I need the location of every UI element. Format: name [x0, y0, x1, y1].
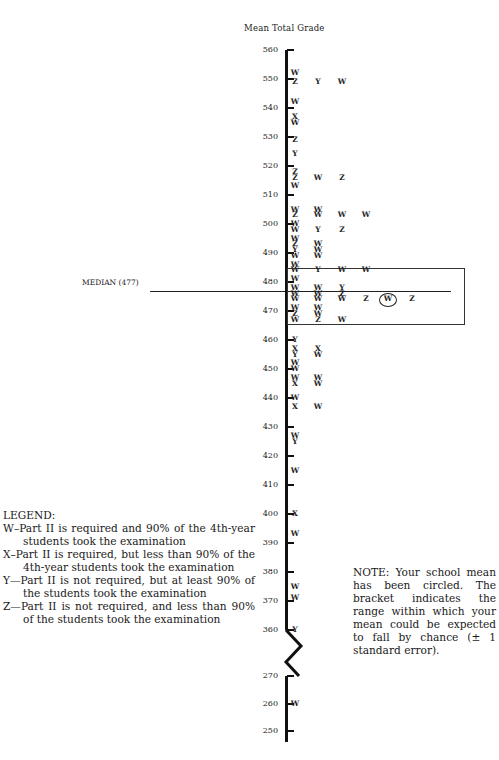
y-tick — [287, 107, 294, 109]
y-tick — [287, 730, 294, 732]
y-tick-label: 550 — [248, 74, 278, 83]
note: NOTE: Your school mean has been circled.… — [353, 566, 496, 657]
data-point-y: Y — [289, 351, 301, 358]
data-point-w: W — [360, 266, 372, 273]
data-point-w: W — [360, 211, 372, 218]
legend: LEGEND: W–Part II is required and 90% of… — [3, 509, 255, 626]
y-tick-label: 250 — [248, 726, 278, 735]
y-tick-label: 490 — [248, 248, 278, 257]
data-point-w: W — [289, 594, 301, 601]
data-point-z: Z — [289, 211, 301, 218]
data-point-w: W — [289, 295, 301, 302]
data-point-w: W — [312, 252, 324, 259]
data-point-w: W — [289, 316, 301, 323]
data-point-w: W — [312, 403, 324, 410]
y-tick-label: 260 — [248, 699, 278, 708]
legend-item-x: X–Part II is required, but less than 90%… — [3, 548, 255, 574]
y-tick-label: 530 — [248, 132, 278, 141]
data-point-y: Y — [312, 266, 324, 273]
data-point-z: Z — [336, 226, 348, 233]
data-point-w: W — [336, 295, 348, 302]
data-point-y: Y — [289, 150, 301, 157]
y-tick-label: 540 — [248, 103, 278, 112]
y-tick-label: 450 — [248, 364, 278, 373]
data-point-z: Z — [289, 174, 301, 181]
data-point-w: W — [312, 295, 324, 302]
data-point-w: W — [336, 211, 348, 218]
chart-title: Mean Total Grade — [244, 23, 325, 33]
y-tick-label: 560 — [248, 45, 278, 54]
y-tick-label: 470 — [248, 306, 278, 315]
legend-item-z: Z—Part II is not required, and less than… — [3, 600, 255, 626]
y-tick-label: 380 — [248, 567, 278, 576]
y-tick — [287, 484, 294, 486]
legend-heading: LEGEND: — [3, 509, 255, 522]
data-point-w: W — [289, 530, 301, 537]
y-tick — [287, 455, 294, 457]
data-point-y: Y — [289, 626, 301, 633]
data-point-z: Z — [360, 295, 372, 302]
y-tick-label: 500 — [248, 219, 278, 228]
data-point-y: Y — [289, 336, 301, 343]
data-point-w: W — [289, 182, 301, 189]
data-point-w: W — [289, 583, 301, 590]
data-point-w: W — [312, 211, 324, 218]
data-point-y: Y — [289, 438, 301, 445]
y-tick-label: 370 — [248, 596, 278, 605]
data-point-x: X — [289, 403, 301, 410]
y-tick-label: 390 — [248, 538, 278, 547]
y-tick-label: 510 — [248, 190, 278, 199]
data-point-y: Y — [312, 226, 324, 233]
y-tick — [287, 49, 294, 51]
y-tick — [287, 542, 294, 544]
data-point-w: W — [289, 365, 301, 372]
median-label: MEDIAN (477) — [82, 278, 139, 287]
y-tick — [287, 426, 294, 428]
data-point-w: W — [289, 119, 301, 126]
y-tick-label: 430 — [248, 422, 278, 431]
data-point-w: W — [312, 174, 324, 181]
data-point-z: Z — [289, 78, 301, 85]
median-line — [150, 291, 285, 293]
data-point-z: Z — [406, 295, 418, 302]
data-point-x: X — [289, 380, 301, 387]
y-tick-label: 440 — [248, 393, 278, 402]
data-point-w: W — [289, 69, 301, 76]
data-point-w: W — [289, 700, 301, 707]
y-tick-label: 400 — [248, 509, 278, 518]
data-point-z: Z — [336, 174, 348, 181]
y-tick — [287, 194, 294, 196]
data-point-w: W — [289, 252, 301, 259]
data-point-w: W — [289, 394, 301, 401]
data-point-w: W — [336, 316, 348, 323]
data-point-w: W — [289, 266, 301, 273]
data-point-w: W — [289, 467, 301, 474]
y-tick-label: 420 — [248, 451, 278, 460]
data-point-w: W — [289, 98, 301, 105]
y-tick-label: 410 — [248, 480, 278, 489]
y-tick — [287, 571, 294, 573]
data-point-w: W — [312, 380, 324, 387]
data-point-w: W — [336, 266, 348, 273]
axis-break-icon — [271, 630, 311, 680]
data-point-y: Y — [312, 78, 324, 85]
y-tick-label: 480 — [248, 277, 278, 286]
data-point-w: W — [289, 275, 301, 282]
y-axis-lower — [285, 676, 288, 742]
y-tick-label: 460 — [248, 335, 278, 344]
data-point-w: W — [336, 78, 348, 85]
data-point-w: W — [312, 351, 324, 358]
legend-item-w: W–Part II is required and 90% of the 4th… — [3, 522, 255, 548]
legend-item-y: Y—Part II is not required, but at least … — [3, 574, 255, 600]
data-point-x: X — [289, 510, 301, 517]
y-tick-label: 520 — [248, 161, 278, 170]
data-point-z: Z — [289, 136, 301, 143]
data-point-z: Z — [312, 316, 324, 323]
data-point-w: W — [289, 226, 301, 233]
